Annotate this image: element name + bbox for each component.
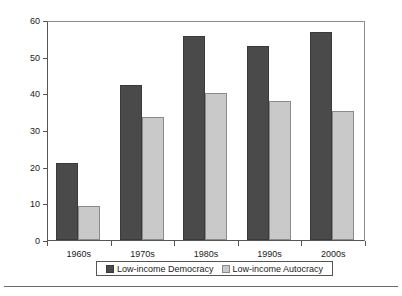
x-tick-mark — [365, 241, 366, 246]
legend-entry: Low-income Democracy — [106, 264, 214, 274]
x-tick-label: 2000s — [301, 249, 365, 259]
bar-chart-figure: % of School-Age Population 0102030405060… — [0, 0, 402, 296]
chart-title — [0, 0, 402, 6]
y-tick-label: 10 — [18, 200, 40, 209]
bar-group — [48, 22, 112, 240]
bar-1980s-democracy — [183, 36, 205, 240]
x-tick-label: 1980s — [174, 249, 238, 259]
bar-group — [175, 22, 239, 240]
bar-1980s-autocracy — [205, 93, 227, 240]
x-tick-mark — [238, 241, 239, 246]
x-tick-mark — [174, 241, 175, 246]
y-tick-label: 30 — [18, 127, 40, 136]
bar-1960s-democracy — [56, 163, 78, 240]
y-tick-label: 20 — [18, 164, 40, 173]
bar-1960s-autocracy — [78, 206, 100, 240]
x-tick-mark — [47, 241, 48, 246]
bar-2000s-autocracy — [332, 111, 354, 240]
bar-2000s-democracy — [310, 32, 332, 240]
legend-swatch-icon — [106, 265, 114, 273]
x-tick-mark — [301, 241, 302, 246]
bar-group — [112, 22, 176, 240]
legend-label: Low-income Autocracy — [233, 264, 324, 274]
legend-label: Low-income Democracy — [117, 264, 214, 274]
bar-1970s-autocracy — [142, 117, 164, 240]
plot-area — [47, 21, 365, 241]
y-tick-label: 60 — [18, 17, 40, 26]
chart-legend: Low-income DemocracyLow-income Autocracy — [96, 261, 333, 276]
bar-1990s-democracy — [247, 46, 269, 240]
bar-group — [239, 22, 303, 240]
legend-entry: Low-income Autocracy — [222, 264, 324, 274]
x-tick-label: 1960s — [47, 249, 111, 259]
y-tick-label: 50 — [18, 54, 40, 63]
bar-group — [302, 22, 366, 240]
y-tick-label: 0 — [18, 237, 40, 246]
x-tick-label: 1970s — [110, 249, 174, 259]
x-tick-mark — [111, 241, 112, 246]
bar-1970s-democracy — [120, 85, 142, 240]
bar-1990s-autocracy — [269, 101, 291, 240]
y-tick-label: 40 — [18, 90, 40, 99]
legend-swatch-icon — [222, 265, 230, 273]
x-tick-label: 1990s — [238, 249, 302, 259]
footer-divider — [4, 286, 398, 287]
